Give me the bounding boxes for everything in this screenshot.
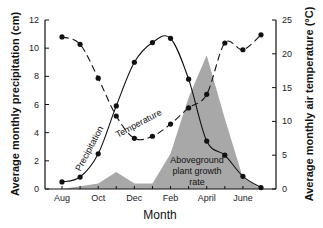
precipitation-point bbox=[114, 103, 119, 108]
temperature-point bbox=[114, 113, 119, 118]
temperature-point bbox=[168, 122, 173, 127]
y-left-tick-label: 8 bbox=[34, 71, 39, 81]
growth-annotation-line2: plant growth bbox=[172, 166, 221, 176]
x-tick-label: June bbox=[233, 193, 253, 203]
temperature-point bbox=[222, 40, 227, 45]
chart: Month Average monthly precipitation (cm)… bbox=[0, 0, 323, 228]
y-axis-right-title: Average monthly air temperature (°C) bbox=[303, 6, 315, 201]
precipitation-point bbox=[204, 139, 209, 144]
temperature-point bbox=[96, 76, 101, 81]
x-axis-title: Month bbox=[143, 208, 176, 222]
y-right-tick-label: 25 bbox=[282, 15, 292, 25]
y-axis-left-title: Average monthly precipitation (cm) bbox=[9, 12, 21, 197]
y-left-tick-label: 4 bbox=[34, 128, 39, 138]
precipitation-point bbox=[186, 77, 191, 82]
x-tick-label: Feb bbox=[163, 193, 179, 203]
precipitation-point bbox=[132, 60, 137, 65]
x-tick-label: Aug bbox=[54, 193, 70, 203]
temperature-point bbox=[150, 134, 155, 139]
temperature-line bbox=[62, 35, 261, 140]
y-right-tick-label: 0 bbox=[282, 184, 287, 194]
temperature-point bbox=[258, 32, 263, 37]
y-left-tick-label: 0 bbox=[34, 184, 39, 194]
temperature-point bbox=[132, 136, 137, 141]
y-right-tick-label: 5 bbox=[282, 150, 287, 160]
precipitation-point bbox=[96, 151, 101, 156]
y-left-tick-label: 2 bbox=[34, 156, 39, 166]
y-left-tick-label: 6 bbox=[34, 100, 39, 110]
labels: Month Average monthly precipitation (cm)… bbox=[9, 6, 315, 222]
y-left-tick-label: 12 bbox=[29, 15, 39, 25]
y-left-tick-label: 10 bbox=[29, 43, 39, 53]
growth-area-shape bbox=[62, 55, 261, 189]
temperature-point bbox=[186, 105, 191, 110]
growth-annotation-line1: Aboveground bbox=[170, 155, 224, 165]
x-tick-label: Oct bbox=[91, 193, 106, 203]
y-right-tick-label: 10 bbox=[282, 116, 292, 126]
y-right-tick-label: 15 bbox=[282, 83, 292, 93]
growth-rate-area bbox=[62, 55, 261, 189]
temperature-point bbox=[240, 47, 245, 52]
growth-annotation-line3: rate bbox=[189, 177, 205, 187]
x-tick-label: Dec bbox=[126, 193, 143, 203]
x-tick-label: April bbox=[198, 193, 216, 203]
precipitation-point bbox=[168, 36, 173, 41]
precipitation-point bbox=[150, 40, 155, 45]
temperature-point bbox=[77, 42, 82, 47]
y-right-tick-label: 20 bbox=[282, 49, 292, 59]
precipitation-point bbox=[59, 179, 64, 184]
temperature-point bbox=[204, 92, 209, 97]
temperature-point bbox=[59, 34, 64, 39]
precipitation-point bbox=[258, 185, 263, 190]
precipitation-point bbox=[240, 174, 245, 179]
precipitation-point bbox=[77, 174, 82, 179]
temperature-annotation: Temperature bbox=[114, 107, 163, 140]
